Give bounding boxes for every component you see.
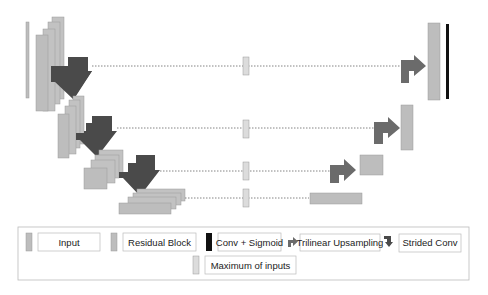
input-bar: [26, 22, 29, 98]
encoder-level-1-residual-blocks: [36, 17, 64, 111]
legend-label-trilinear-upsampling: Trilinear Upsampling: [297, 237, 384, 248]
maximum-swatch: [193, 256, 199, 274]
legend-item-residual-block: Residual Block: [111, 233, 196, 251]
conv-sigmoid-swatch: [206, 233, 212, 251]
legend-label-maximum: Maximum of inputs: [211, 260, 291, 271]
legend-label-conv-sigmoid: Conv + Sigmoid: [216, 237, 283, 248]
legend-label-strided-conv: Strided Conv: [403, 237, 458, 248]
maximum-block-2: [243, 120, 249, 138]
upsampling-arrow-3: [330, 159, 356, 183]
decoder-level-3-residual-block: [360, 155, 383, 175]
legend-item-trilinear-upsampling: Trilinear Upsampling: [288, 234, 383, 251]
legend-label-input: Input: [58, 237, 79, 248]
legend-label-residual-block: Residual Block: [128, 237, 191, 248]
encoder-level-4-residual-blocks: [119, 189, 185, 214]
maximum-block-4: [243, 189, 249, 207]
input-swatch: [26, 233, 32, 251]
decoder-level-1-residual-block: [428, 23, 440, 100]
legend: Input Residual Block Conv + Sigmoid Tril…: [18, 227, 469, 280]
upsampling-arrow-1: [401, 55, 426, 83]
encoder-level-2-residual-blocks: [58, 96, 84, 158]
maximum-block-1: [243, 57, 249, 75]
residual-block-swatch: [111, 233, 117, 251]
upsampling-arrow-2: [374, 117, 400, 144]
encoder-level-3-residual-blocks: [84, 150, 123, 189]
maximum-block-3: [243, 162, 249, 180]
decoder-level-2-residual-block: [401, 105, 413, 150]
conv-sigmoid-output: [446, 24, 449, 99]
legend-item-maximum: Maximum of inputs: [193, 256, 296, 274]
decoder-level-4-residual-block: [310, 193, 362, 204]
unet-architecture-diagram: Input Residual Block Conv + Sigmoid Tril…: [0, 0, 488, 295]
